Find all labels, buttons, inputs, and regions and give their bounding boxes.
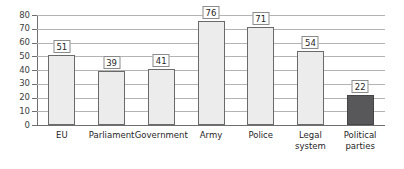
y-axis-tick-label: 80 (4, 11, 30, 20)
bar-value-label: 51 (53, 40, 70, 53)
bar (297, 51, 324, 125)
y-axis-tick (32, 98, 37, 99)
x-axis-category-label: Political parties (344, 130, 377, 152)
bar (347, 95, 374, 125)
y-axis-tick (32, 29, 37, 30)
bar (148, 69, 175, 125)
x-axis-category-label: Parliament (89, 130, 135, 141)
y-axis-tick-label: 70 (4, 24, 30, 33)
bar (48, 55, 75, 125)
x-axis-category-label: Police (248, 130, 273, 141)
x-axis-category-label: EU (56, 130, 68, 141)
y-axis-tick-label: 0 (4, 121, 30, 130)
y-axis-tick (32, 125, 37, 126)
y-axis-tick (32, 15, 37, 16)
y-axis-tick (32, 70, 37, 71)
y-axis-tick-label: 10 (4, 107, 30, 116)
x-axis-category-label: Legal system (295, 130, 326, 152)
bar-value-label: 41 (153, 54, 170, 67)
x-axis-category-label: Government (135, 130, 188, 141)
bar-value-label: 39 (103, 56, 120, 69)
bar-value-label: 76 (203, 6, 220, 19)
y-axis-tick-label: 60 (4, 38, 30, 47)
bar-chart: 01020304050607080 51394176715422 EUParli… (0, 0, 404, 169)
bar-value-label: 54 (302, 36, 319, 49)
plot-area: 51394176715422 (37, 15, 385, 125)
y-axis-tick-label: 50 (4, 52, 30, 61)
y-axis-tick-labels: 01020304050607080 (0, 0, 30, 169)
x-axis-baseline (37, 125, 385, 126)
bar-value-label: 22 (352, 80, 369, 93)
bar (98, 71, 125, 125)
y-axis-tick (32, 43, 37, 44)
bar (198, 21, 225, 126)
y-axis-tick-label: 30 (4, 79, 30, 88)
y-axis-tick (32, 84, 37, 85)
x-axis-category-label: Army (200, 130, 222, 141)
y-axis-tick (32, 56, 37, 57)
y-axis-tick-label: 20 (4, 93, 30, 102)
bar (247, 27, 274, 125)
y-axis-tick-label: 40 (4, 66, 30, 75)
bar-value-label: 71 (252, 12, 269, 25)
y-axis-tick (32, 111, 37, 112)
